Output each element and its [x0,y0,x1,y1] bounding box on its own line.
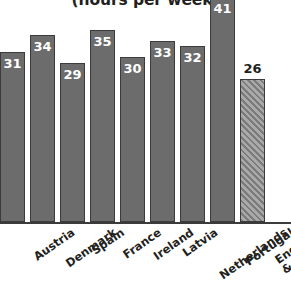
bar-value-label: 32 [180,51,205,64]
plot-area: 313429353033324126 [0,0,291,223]
bar [0,52,25,223]
bar-value-label: 34 [30,40,55,53]
bar-group: 34 [30,0,55,222]
bar-value-label: 30 [120,62,145,75]
bar-value-label: 26 [240,62,265,75]
bar [210,0,235,222]
bar [180,46,205,222]
bar-value-label: 41 [210,2,235,15]
bar [120,57,145,222]
bar-value-label: 35 [90,35,115,48]
bar-group: 26 [240,0,265,222]
bar [30,35,55,222]
bar-group: 32 [180,0,205,222]
bar-value-label: 31 [0,57,25,70]
bar-group: 30 [120,0,145,222]
bar-group: 31 [0,0,25,222]
bar-group: 29 [60,0,85,222]
bar-group: 41 [210,0,235,222]
bar-group: 33 [150,0,175,222]
x-axis-tick-labels: AustriaDenmarkSpainFranceIrelandLatviaNe… [0,223,291,288]
bar-chart: (hours per week) 313429353033324126 Aust… [0,0,291,288]
bar-value-label: 29 [60,68,85,81]
bar-group: 35 [90,0,115,222]
bar-value-label: 33 [150,46,175,59]
bar [60,63,85,223]
bar [90,30,115,223]
bar [240,79,265,222]
bar [150,41,175,223]
